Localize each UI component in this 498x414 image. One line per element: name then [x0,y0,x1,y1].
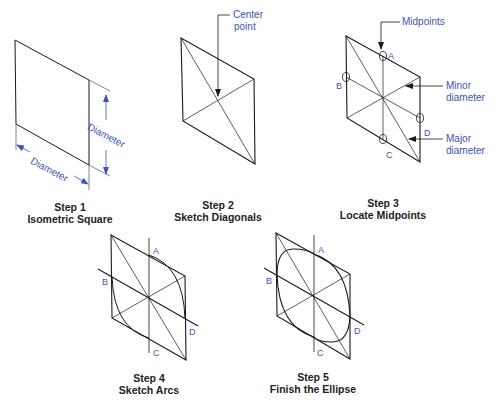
minor-diameter-label-line2: diameter [446,92,485,104]
midpoints-leader [381,22,400,49]
step1-title: Isometric Square [27,213,112,225]
step4-drawing [98,235,198,360]
point-label-d: D [424,128,431,138]
step1-drawing [15,40,110,190]
point-label-a: A [318,245,324,255]
step5-caption: Step 5 Finish the Ellipse [270,371,356,395]
point-label-a: A [388,51,394,61]
point-label-c: C [386,150,393,160]
isometric-ellipse [277,249,350,342]
step1-number: Step 1 [27,201,112,213]
center-point-label-line2: point [234,21,256,33]
point-label-a: A [153,246,159,256]
point-label-c: C [153,348,160,358]
dimension-line-diagonal [17,145,30,152]
step5-number: Step 5 [270,371,356,383]
step3-caption: Step 3 Locate Midpoints [340,197,426,221]
minor-diameter-label-line1: Minor [446,80,471,92]
step4-number: Step 4 [119,372,179,384]
step5-drawing [264,233,364,359]
diagonal-short [183,79,254,121]
midpoints-label: Midpoints [402,16,445,28]
center-point-leader [218,15,230,96]
step4-title: Sketch Arcs [119,384,179,396]
point-label-b: B [336,81,342,91]
major-diameter-label-line2: diameter [446,145,485,157]
point-label-d: D [354,326,361,336]
step2-title: Sketch Diagonals [174,211,262,223]
point-label-b: B [102,277,108,287]
diagonal-short [277,274,350,316]
point-label-c: C [317,348,324,358]
step2-drawing [181,15,255,164]
step2-number: Step 2 [174,199,262,211]
major-diameter-label-line1: Major [446,133,471,145]
extension-line [89,80,110,91]
step4-caption: Step 4 Sketch Arcs [119,372,179,396]
extension-line [89,165,110,176]
point-label-d: D [189,327,196,337]
step3-drawing [343,22,444,162]
isometric-square [15,40,89,165]
step2-caption: Step 2 Sketch Diagonals [174,199,262,223]
dimension-line-diagonal [74,176,88,184]
diagonal-short [112,276,185,318]
step3-number: Step 3 [340,197,426,209]
point-label-b: B [266,276,272,286]
step1-caption: Step 1 Isometric Square [27,201,112,225]
step5-title: Finish the Ellipse [270,383,356,395]
center-point-label-line1: Center [233,9,263,21]
step3-title: Locate Midpoints [340,209,426,221]
